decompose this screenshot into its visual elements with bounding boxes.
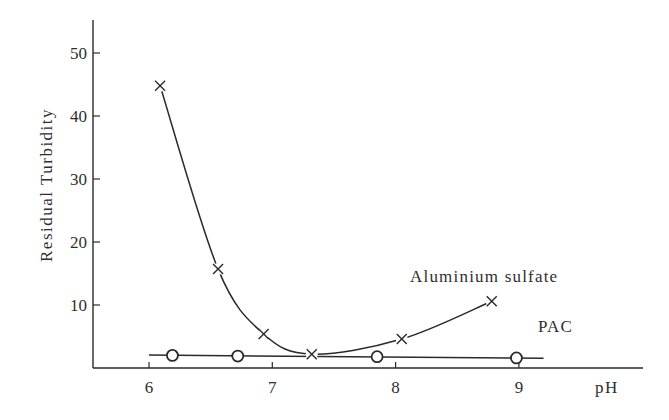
y-tick-label: 10 [70,296,87,315]
x-tick-label: 6 [145,378,154,397]
x-tick-label: 7 [268,378,277,397]
aluminium-sulfate-curve [160,86,492,354]
circle-marker-icon [167,350,178,361]
x-marker-icon [306,348,318,360]
y-axis-title: Residual Turbidity [37,108,56,262]
series-label-pac: PAC [538,317,573,336]
x-marker-icon [486,295,498,307]
pac-line [149,355,544,358]
series-markers [154,80,522,364]
circle-marker-icon [232,351,243,362]
y-tick-label: 30 [70,170,87,189]
turbidity-vs-ph-chart: 10203040506789 Residual Turbidity pH Alu… [0,0,669,420]
axes [93,20,643,368]
y-tick-label: 40 [70,107,87,126]
circle-marker-icon [372,351,383,362]
y-tick-label: 20 [70,233,87,252]
y-tick-label: 50 [70,44,87,63]
series-curves [149,86,544,358]
x-marker-icon [258,328,270,340]
x-marker-icon [212,263,224,275]
x-tick-label: 8 [391,378,400,397]
axis-ticks: 10203040506789 [70,44,523,397]
x-marker-icon [154,80,166,92]
x-axis-title: pH [595,378,619,397]
x-marker-icon [396,333,408,345]
series-label-aluminium-sulfate: Aluminium sulfate [410,267,558,286]
circle-marker-icon [511,352,522,363]
x-tick-label: 9 [515,378,524,397]
